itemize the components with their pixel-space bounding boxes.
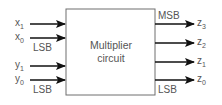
output-z1: z1 bbox=[155, 55, 206, 68]
input-label-y1: y1 bbox=[15, 59, 24, 72]
block-label-line1: Multiplier bbox=[90, 39, 133, 51]
input-y1: y1 bbox=[15, 59, 65, 72]
y-lsb-label: LSB bbox=[33, 84, 52, 95]
output-lsb-label: LSB bbox=[158, 84, 177, 95]
output-label-z3: z3 bbox=[197, 17, 206, 30]
input-label-x1: x1 bbox=[15, 17, 24, 30]
msb-label: MSB bbox=[158, 10, 180, 21]
output-label-z2: z2 bbox=[197, 36, 206, 49]
output-label-z1: z1 bbox=[197, 55, 206, 68]
block-label-line2: circuit bbox=[97, 52, 125, 64]
input-x1: x1 bbox=[15, 17, 65, 30]
x-lsb-label: LSB bbox=[33, 42, 52, 53]
output-z2: z2 bbox=[155, 36, 206, 49]
output-label-z0: z0 bbox=[197, 73, 206, 86]
input-label-x0: x0 bbox=[15, 31, 24, 44]
input-label-y0: y0 bbox=[15, 73, 24, 86]
multiplier-diagram: Multiplier circuit x1 x0 LSB y1 y0 LSB M… bbox=[0, 0, 222, 105]
